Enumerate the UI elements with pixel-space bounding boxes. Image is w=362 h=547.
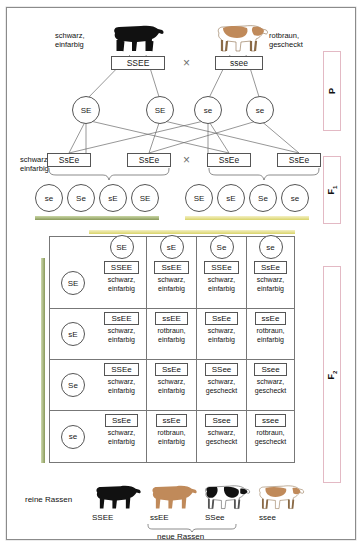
p-gamete-3: se [194, 96, 222, 124]
f1-cross-symbol: × [183, 153, 190, 167]
generation-tag-p: P [323, 51, 341, 131]
generation-tag-f1-sub: 1 [332, 186, 338, 189]
parent-cross-symbol: × [183, 56, 190, 70]
punnett-row-header-circle-2: sE [61, 322, 85, 346]
cow-breed-brown-spotted-illustration [253, 481, 305, 511]
punnett-col-header-circle-1: SE [110, 235, 134, 259]
parent-right-genotype: ssee [215, 56, 263, 70]
p-gamete-2: SE [146, 96, 174, 124]
f1-gamete-left-3: sE [99, 184, 127, 212]
punnett-col-header-circle-3: Se [210, 235, 234, 259]
cow-breed-black-illustration [90, 481, 142, 511]
punnett-top-bar-yellow [89, 230, 295, 234]
breed-genotype-1: SSEE [92, 513, 113, 522]
f1-brace-left [47, 167, 171, 181]
f1-gamete-right-2: sE [217, 184, 245, 212]
punnett-row-header-circle-4: se [61, 425, 85, 449]
diagram-root: schwarz, einfarbig SSEE × ssee rotbraun,… [0, 0, 362, 547]
parent-left-genotype: SSEE [111, 56, 165, 70]
pure-breeds-label: reine Rassen [25, 495, 72, 504]
generation-tag-f1: F1 [323, 156, 341, 224]
breed-genotype-3: SSee [205, 513, 225, 522]
cow-breed-brown-illustration [146, 481, 198, 511]
parent-left-phenotype: schwarz, einfarbig [55, 31, 85, 49]
gamete-bar-green-maternal [35, 216, 159, 220]
gamete-bar-yellow-paternal [185, 216, 309, 220]
breed-genotype-4: ssee [259, 513, 276, 522]
punnett-left-bar-green [41, 258, 45, 463]
f1-brace-right [207, 167, 321, 181]
cow-breed-black-spotted-illustration [199, 481, 251, 511]
f1-genotype-2: SsEe [127, 153, 171, 167]
punnett-row-header-circle-1: SE [61, 271, 85, 295]
generation-tag-f1-label: F [326, 189, 336, 195]
f1-gamete-left-4: SE [131, 184, 159, 212]
f1-gamete-right-3: Se [249, 184, 277, 212]
parent-right-phenotype: rotbraun, gescheckt [269, 31, 303, 49]
generation-tag-f2: F2 [323, 266, 341, 483]
p-gamete-1: SE [72, 96, 100, 124]
f1-phenotype: schwarz, einfarbig [20, 155, 50, 173]
generation-tag-f2-label: F [326, 373, 336, 379]
f1-genotype-3: SsEe [207, 153, 251, 167]
inheritance-line-layer [7, 8, 355, 539]
f1-gamete-left-2: Se [67, 184, 95, 212]
punnett-col-header-circle-2: sE [160, 235, 184, 259]
f1-genotype-4: SsEe [277, 153, 321, 167]
p-gamete-4: se [246, 96, 274, 124]
punnett-row-header-circle-3: Se [61, 373, 85, 397]
punnett-col-header-circle-4: se [259, 235, 283, 259]
new-breeds-label: neue Rassen [157, 532, 204, 541]
f1-gamete-right-4: se [281, 184, 309, 212]
f1-gamete-right-1: SE [185, 184, 213, 212]
f1-genotype-1: SsEe [47, 153, 91, 167]
breed-genotype-2: ssEE [150, 513, 169, 522]
diagram-frame: schwarz, einfarbig SSEE × ssee rotbraun,… [6, 7, 356, 540]
generation-tag-f2-sub: 2 [332, 370, 338, 373]
generation-tag-p-label: P [327, 88, 337, 94]
cow-black-illustration [107, 21, 165, 53]
cow-brown-spotted-illustration [211, 21, 269, 53]
f1-gamete-left-1: se [35, 184, 63, 212]
